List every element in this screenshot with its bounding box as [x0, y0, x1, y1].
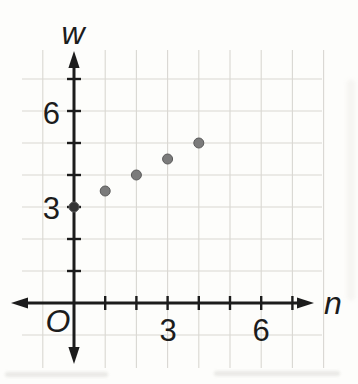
data-point — [100, 186, 110, 196]
x-tick-label-6: 6 — [252, 313, 269, 348]
y-tick-label-3: 3 — [43, 191, 60, 226]
data-point — [163, 154, 173, 164]
scatter-plot: w n O 6 3 3 6 — [0, 0, 358, 384]
origin-label: O — [46, 303, 71, 339]
data-point — [131, 170, 141, 180]
graph-figure: w n O 6 3 3 6 — [0, 0, 358, 384]
scan-artifact — [5, 372, 108, 377]
axis-ticks — [67, 79, 292, 310]
x-axis-right-arrow — [297, 297, 314, 308]
y-axis-up-arrow — [68, 51, 79, 68]
x-axis-left-arrow — [11, 297, 28, 308]
y-tick-label-6: 6 — [43, 96, 60, 131]
data-point — [194, 138, 204, 148]
y-axis-label: w — [61, 15, 86, 51]
x-tick-label-3: 3 — [159, 313, 176, 348]
scan-artifact — [347, 80, 355, 300]
x-axis-label: n — [324, 285, 342, 321]
scan-artifact — [214, 371, 340, 376]
y-axis-down-arrow — [68, 347, 79, 364]
axis-labels: w n O 6 3 3 6 — [43, 15, 342, 348]
data-point — [69, 202, 79, 212]
